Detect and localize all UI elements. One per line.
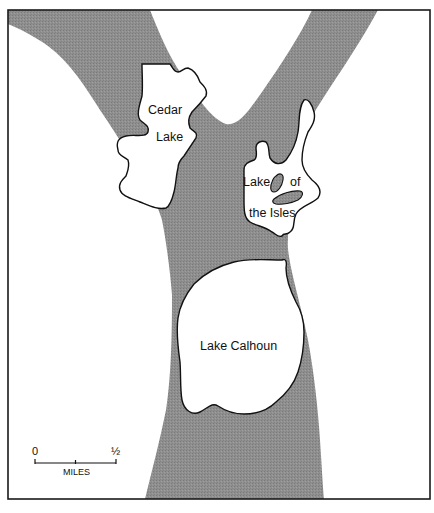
- map-canvas: [0, 0, 434, 513]
- lake-of-the-isles-label-line-2: of: [290, 176, 300, 189]
- lake-calhoun-label: Lake Calhoun: [200, 340, 277, 353]
- lake-of-the-isles-label-line-1: Lake: [243, 176, 270, 189]
- cedar-lake-label-line-2: Lake: [156, 131, 183, 144]
- cedar-lake-label-line-1: Cedar: [148, 104, 182, 117]
- lake-calhoun: [177, 259, 304, 414]
- scale-end-label: ½: [111, 446, 120, 457]
- scale-unit-label: MILES: [63, 468, 90, 477]
- scale-start-label: 0: [32, 446, 38, 457]
- lake-of-the-isles-label-line-3: the Isles: [249, 207, 296, 220]
